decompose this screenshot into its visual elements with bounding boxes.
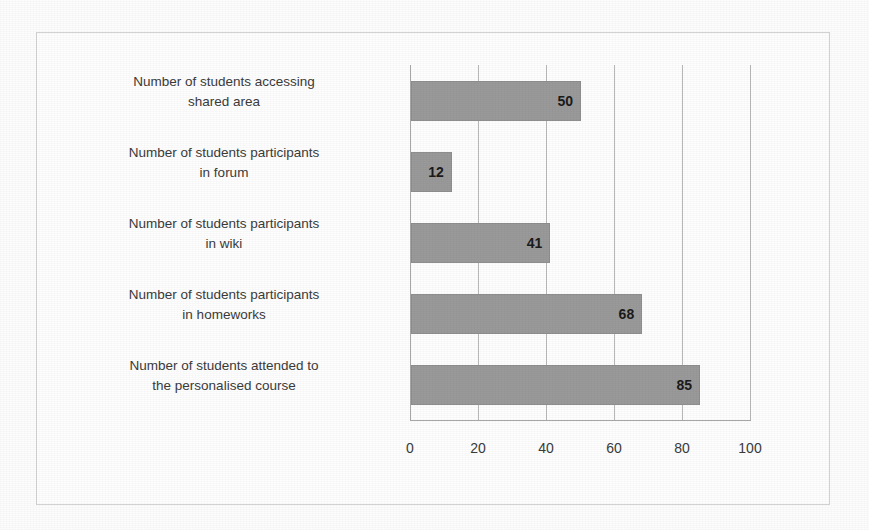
category-label-line: Number of students participants (48, 214, 400, 234)
category-label: Number of students participants in wiki (48, 214, 400, 254)
horizontal-bar-chart: Number of students accessing shared area… (0, 0, 869, 530)
category-label-line: in wiki (48, 234, 400, 254)
category-label: Number of students participants in forum (48, 143, 400, 183)
x-tick-label-20: 20 (458, 440, 498, 456)
x-tick-label-100: 100 (730, 440, 770, 456)
category-label: Number of students attended to the perso… (48, 356, 400, 396)
bar-value-label: 68 (619, 306, 635, 322)
bar[interactable]: 68 (411, 294, 642, 334)
bar-value-label: 12 (428, 164, 444, 180)
bar-value-label: 50 (557, 93, 573, 109)
x-tick-label-0: 0 (390, 440, 430, 456)
category-label-line: Number of students participants (48, 285, 400, 305)
chart-screenshot: Number of students accessing shared area… (0, 0, 869, 530)
bar-value-label: 85 (676, 377, 692, 393)
category-label-line: Number of students participants (48, 143, 400, 163)
category-label-line: shared area (48, 92, 400, 112)
x-tick-label-80: 80 (662, 440, 702, 456)
category-label: Number of students participants in homew… (48, 285, 400, 325)
category-label-line: in forum (48, 163, 400, 183)
category-label-line: in homeworks (48, 305, 400, 325)
bar[interactable]: 41 (411, 223, 550, 263)
bar[interactable]: 50 (411, 81, 581, 121)
category-label: Number of students accessing shared area (48, 72, 400, 112)
plot-area: 5012416885 (410, 65, 750, 420)
gridline-100 (750, 65, 751, 420)
bar-value-label: 41 (527, 235, 543, 251)
x-tick-label-40: 40 (526, 440, 566, 456)
category-label-line: Number of students accessing (48, 72, 400, 92)
x-axis-line (410, 420, 751, 421)
bar[interactable]: 12 (411, 152, 452, 192)
x-tick-label-60: 60 (594, 440, 634, 456)
category-label-line: the personalised course (48, 376, 400, 396)
category-label-line: Number of students attended to (48, 356, 400, 376)
bar[interactable]: 85 (411, 365, 700, 405)
